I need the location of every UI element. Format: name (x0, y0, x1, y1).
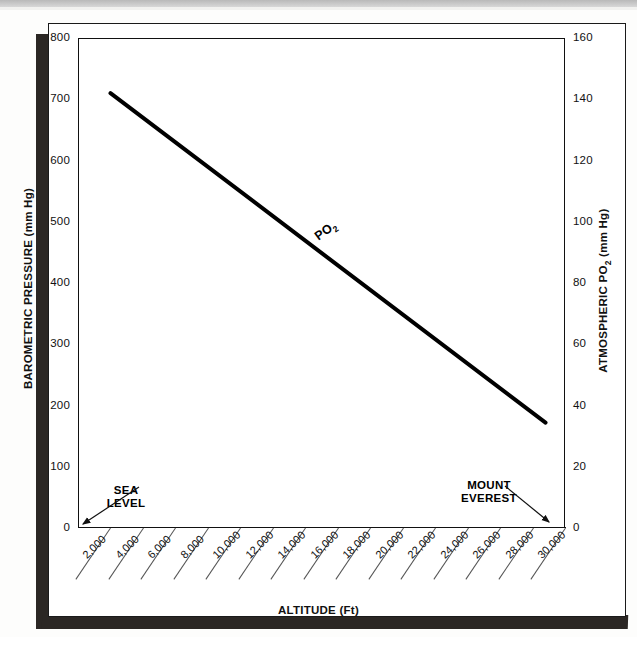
y-axis-right-tick-label: 60 (573, 338, 586, 350)
y-axis-right-tick-label: 40 (573, 400, 586, 412)
annotation-sea-level-line1: SEA (96, 484, 156, 497)
y-axis-right-tick-label: 80 (573, 277, 586, 289)
scan-artifact-top-bar (0, 0, 637, 7)
y-axis-left-title: BAROMETRIC PRESSURE (mm Hg) (22, 189, 34, 389)
scan-artifact-bottom-bar (0, 637, 637, 647)
y-axis-left-tick-label: 200 (0, 400, 70, 412)
y-axis-right-tick-label: 120 (573, 155, 593, 167)
y-axis-right-tick-label: 160 (573, 32, 593, 44)
y-axis-left-tick-label: 600 (0, 155, 70, 167)
y-axis-right-title-pre: ATMOSPHERIC PO (597, 265, 609, 372)
y-axis-left-tick-label: 500 (0, 216, 70, 228)
annotation-sea-level: SEA LEVEL (96, 484, 156, 509)
y-axis-right-title-post: (mm Hg) (597, 209, 609, 261)
annotation-mount-everest: MOUNT EVEREST (448, 479, 530, 504)
annotation-mount-everest-line1: MOUNT (448, 479, 530, 492)
y-axis-left-tick-label: 400 (0, 277, 70, 289)
annotation-mount-everest-line2: EVEREST (448, 492, 530, 505)
y-axis-right-title-subscript: 2 (603, 260, 613, 265)
plaque-bottom-shadow (42, 615, 628, 629)
y-axis-right-tick-label: 100 (573, 216, 593, 228)
plot-area-frame (78, 38, 565, 528)
y-axis-right-tick-label: 0 (573, 522, 580, 534)
y-axis-left-tick-label: 700 (0, 93, 70, 105)
y-axis-left-tick-label: 800 (0, 32, 70, 44)
y-axis-left-tick-label: 0 (0, 522, 70, 534)
y-axis-right-tick-label: 20 (573, 461, 586, 473)
annotation-sea-level-line2: LEVEL (96, 497, 156, 510)
y-axis-left-tick-label: 100 (0, 461, 70, 473)
y-axis-left-tick-label: 300 (0, 338, 70, 350)
scan-artifact-top-gap (0, 7, 637, 10)
x-axis-title: ALTITUDE (Ft) (0, 604, 637, 616)
y-axis-right-tick-label: 140 (573, 93, 593, 105)
y-axis-right-title: ATMOSPHERIC PO2 (mm Hg) (597, 191, 612, 391)
plot-baseline-axis (78, 527, 566, 528)
